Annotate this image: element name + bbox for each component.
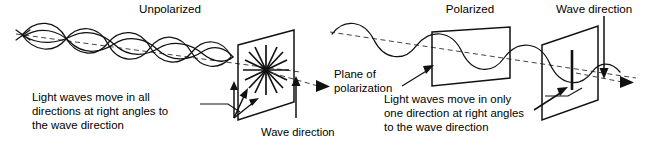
polarized-caption-line-1: Light waves move in only <box>384 93 512 105</box>
propagation-axis-dashed-right <box>330 32 636 78</box>
unpolarized-heading: Unpolarized <box>139 2 201 15</box>
unpolarized-caption-line-3: the wave direction <box>32 119 124 131</box>
unpolarized-caption-line-2: directions at right angles to <box>32 105 168 117</box>
plane-of-polarization-leader <box>402 65 434 86</box>
wave-curve <box>22 23 231 62</box>
unpolarized-panel: Unpolarized Light waves move in all dire… <box>16 2 335 138</box>
wave-curve <box>24 30 233 59</box>
wave-direction-label-right: Wave direction <box>556 2 632 15</box>
vibration-arrows <box>230 81 259 118</box>
wave-direction-label-left: Wave direction <box>261 126 335 138</box>
plane-of-polarization-label-line-1: Plane of <box>334 68 377 80</box>
polarization-diagram: Unpolarized Light waves move in all dire… <box>0 0 656 148</box>
source-convergence-mark <box>16 30 30 40</box>
polarized-caption-line-2: one direction at right angles <box>384 107 524 119</box>
unpolarized-caption-line-1: Light waves move in all <box>32 91 150 103</box>
propagation-arrowhead-left <box>316 80 330 92</box>
starburst-icon <box>243 45 289 95</box>
wave-direction-pointer-left <box>292 76 301 118</box>
polarized-caption-line-3: to the wave direction <box>384 121 488 133</box>
polarized-caption-leader <box>534 87 582 110</box>
propagation-arrowhead-right <box>620 76 634 88</box>
plane-of-polarization <box>432 27 510 86</box>
unpolarized-wave-bundle <box>16 23 233 66</box>
polarized-panel: Polarized Wave direction Plane of polari… <box>330 2 636 133</box>
polarized-heading: Polarized <box>446 2 494 15</box>
wave-direction-pointer-right <box>600 16 609 79</box>
wave-curve <box>22 29 231 67</box>
diagram-canvas: Unpolarized Light waves move in all dire… <box>0 0 656 148</box>
polarized-screen-plane <box>542 26 598 120</box>
